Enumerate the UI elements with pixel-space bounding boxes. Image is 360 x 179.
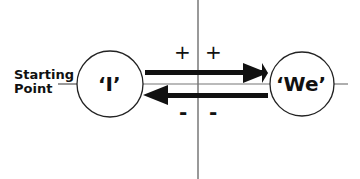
starting-point-label: Starting Point	[14, 68, 74, 96]
starting-label-line1: Starting	[14, 68, 74, 82]
backward-arrow-head-icon	[143, 85, 168, 105]
plus-right: +	[205, 40, 222, 64]
minus-left: -	[179, 100, 187, 124]
node-i-label: ‘I’	[98, 72, 121, 96]
starting-label-line2: Point	[14, 82, 74, 96]
forward-arrow-head-icon	[243, 63, 268, 83]
plus-left: +	[174, 40, 191, 64]
node-we-label: ‘We’	[276, 72, 326, 96]
backward-arrow-shaft	[160, 93, 268, 98]
minus-right: -	[209, 100, 217, 124]
